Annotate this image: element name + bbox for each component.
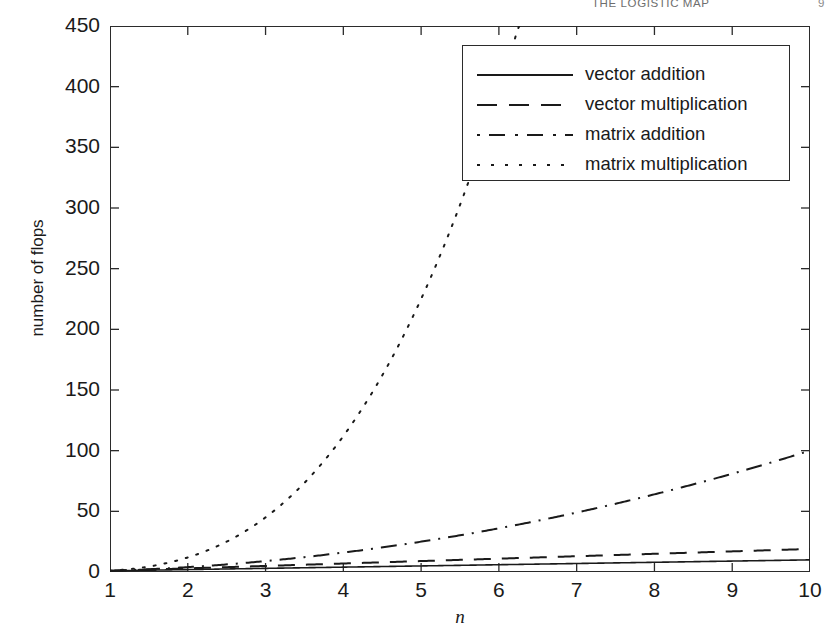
y-tick-label: 100 bbox=[8, 438, 100, 462]
legend-item-matrix-addition: matrix addition bbox=[463, 120, 791, 150]
x-tick-label: 10 bbox=[790, 578, 830, 602]
y-axis-title: number of flops bbox=[28, 178, 48, 378]
legend-label: vector multiplication bbox=[585, 93, 747, 115]
x-tick-label: 1 bbox=[90, 578, 130, 602]
y-tick-label: 200 bbox=[8, 316, 100, 340]
curve-vector-multiplication bbox=[110, 549, 810, 571]
x-axis-title: n bbox=[440, 606, 480, 628]
y-tick-label: 400 bbox=[8, 74, 100, 98]
legend-item-vector-addition: vector addition bbox=[463, 60, 791, 90]
y-tick-label: 0 bbox=[8, 559, 100, 583]
x-tick-label: 6 bbox=[479, 578, 519, 602]
y-tick-label: 250 bbox=[8, 256, 100, 280]
x-tick-label: 5 bbox=[401, 578, 441, 602]
legend-line-sample-icon bbox=[477, 74, 573, 76]
legend-line-sample-icon bbox=[477, 134, 573, 136]
chart-legend: vector additionvector multiplicationmatr… bbox=[462, 45, 790, 181]
y-tick-label: 450 bbox=[8, 13, 100, 37]
legend-line-sample-icon bbox=[477, 164, 573, 166]
y-tick-label: 300 bbox=[8, 195, 100, 219]
x-tick-label: 2 bbox=[168, 578, 208, 602]
figure-flops-vs-n: 050100150200250300350400450 12345678910 … bbox=[0, 0, 836, 638]
y-tick-label: 350 bbox=[8, 134, 100, 158]
legend-label: matrix addition bbox=[585, 123, 705, 145]
x-tick-label: 4 bbox=[323, 578, 363, 602]
legend-label: vector addition bbox=[585, 63, 705, 85]
legend-line-sample-icon bbox=[477, 104, 573, 106]
x-tick-label: 7 bbox=[557, 578, 597, 602]
y-tick-label: 50 bbox=[8, 498, 100, 522]
y-tick-label: 150 bbox=[8, 377, 100, 401]
x-tick-label: 8 bbox=[634, 578, 674, 602]
legend-item-matrix-multiplication: matrix multiplication bbox=[463, 150, 791, 180]
legend-label: matrix multiplication bbox=[585, 153, 747, 175]
legend-item-vector-multiplication: vector multiplication bbox=[463, 90, 791, 120]
x-tick-label: 3 bbox=[246, 578, 286, 602]
x-tick-label: 9 bbox=[712, 578, 752, 602]
